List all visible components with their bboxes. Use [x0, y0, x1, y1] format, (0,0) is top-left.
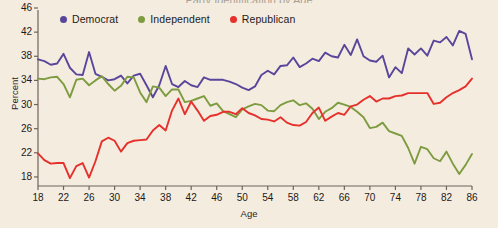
- series-line-independent: [38, 76, 472, 174]
- series-line-democrat: [38, 31, 472, 97]
- plot-area: [0, 0, 498, 228]
- chart-container: Party Identification by Age Democrat Ind…: [0, 0, 498, 228]
- series-line-republican: [38, 79, 472, 179]
